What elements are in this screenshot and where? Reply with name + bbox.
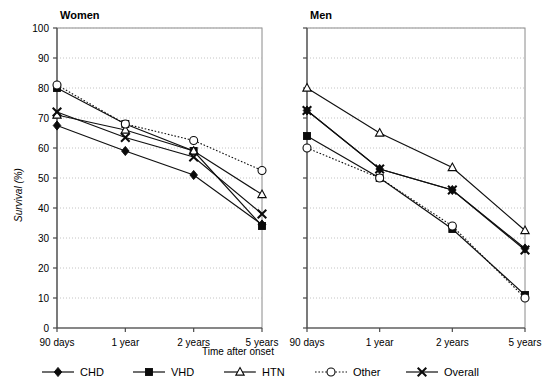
legend-label-chd: CHD: [80, 366, 104, 378]
x-tick-label: 5 years: [509, 337, 542, 348]
x-axis-title: Time after onset: [202, 346, 274, 357]
x-tick-label: 2 years: [436, 337, 469, 348]
marker-other: [258, 167, 266, 175]
y-tick-label: 100: [32, 23, 49, 34]
y-tick-label: 10: [38, 293, 50, 304]
marker-other: [327, 368, 335, 376]
y-tick-label: 40: [38, 203, 50, 214]
marker-other: [521, 294, 529, 302]
panel-title-men: Men: [310, 9, 332, 21]
y-axis-title: Survival (%): [13, 168, 24, 222]
x-tick-label: 90 days: [39, 337, 74, 348]
x-tick-label: 90 days: [289, 337, 324, 348]
marker-other: [121, 120, 129, 128]
y-tick-label: 50: [38, 173, 50, 184]
figure-background: [0, 0, 553, 379]
marker-vhd: [259, 223, 266, 230]
marker-vhd: [146, 369, 153, 376]
y-tick-label: 80: [38, 83, 50, 94]
legend-label-vhd: VHD: [171, 366, 194, 378]
y-tick-label: 20: [38, 263, 50, 274]
panel-title-women: Women: [60, 9, 100, 21]
figure-container: 010203040506070809010090 days1 year2 yea…: [0, 0, 553, 379]
marker-other: [448, 222, 456, 230]
x-tick-label: 1 year: [366, 337, 394, 348]
marker-other: [376, 174, 384, 182]
x-tick-label: 1 year: [111, 337, 139, 348]
marker-other: [303, 144, 311, 152]
marker-other: [190, 137, 198, 145]
y-tick-label: 0: [43, 323, 49, 334]
legend-label-htn: HTN: [262, 366, 285, 378]
survival-chart-svg: 010203040506070809010090 days1 year2 yea…: [0, 0, 553, 379]
legend-label-other: Other: [353, 366, 381, 378]
y-tick-label: 90: [38, 53, 50, 64]
legend-label-overall: Overall: [444, 366, 479, 378]
y-tick-label: 60: [38, 143, 50, 154]
marker-other: [53, 81, 61, 89]
y-tick-label: 30: [38, 233, 50, 244]
y-tick-label: 70: [38, 113, 50, 124]
marker-vhd: [304, 133, 311, 140]
